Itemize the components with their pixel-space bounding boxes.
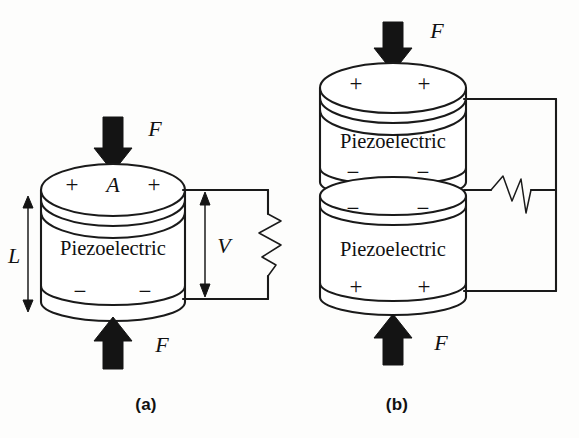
panel-caption-b: (b): [386, 395, 408, 414]
top-sign-left-b: +: [350, 71, 363, 96]
resistor-icon-b: [491, 176, 531, 213]
circuit-a: [183, 190, 281, 299]
voltage-dimension-a: [200, 192, 210, 297]
bottom-sign-left-a: −: [74, 279, 87, 304]
force-arrow-up-b: [374, 314, 412, 365]
top-sign-right-a: +: [148, 172, 161, 197]
force-arrow-up-a: [94, 317, 132, 369]
mid-upper-sign-left-b: −: [347, 160, 360, 185]
top-face-b: [320, 63, 466, 113]
length-dimension-a: [23, 196, 33, 312]
material-label-lower-b: Piezoelectric: [340, 238, 446, 260]
material-label-upper-b: Piezoelectric: [340, 130, 446, 152]
panel-a: F + A + Piezoelectric − −: [7, 116, 281, 414]
mid-upper-sign-right-b: −: [417, 160, 430, 185]
voltage-label-a: V: [217, 233, 233, 258]
figure-root: F + A + Piezoelectric − −: [0, 0, 579, 438]
bottom-sign-right-b: +: [418, 274, 431, 299]
resistor-icon-a: [259, 214, 281, 276]
force-label-bottom-a: F: [154, 332, 169, 357]
length-label-a: L: [7, 243, 20, 268]
top-sign-left-a: +: [66, 172, 79, 197]
bottom-sign-left-b: +: [350, 274, 363, 299]
panel-caption-a: (a): [135, 395, 156, 414]
panel-b: F + + Piezoelectric −: [320, 18, 556, 414]
area-label-a: A: [104, 172, 120, 197]
circuit-b: [464, 99, 556, 291]
force-label-bottom-b: F: [433, 330, 448, 355]
force-label-top-b: F: [429, 18, 444, 43]
top-sign-right-b: +: [418, 71, 431, 96]
bottom-sign-right-a: −: [139, 279, 152, 304]
material-label-a: Piezoelectric: [60, 237, 166, 259]
mid-lower-sign-left-b: −: [347, 196, 360, 221]
mid-face-b: [320, 177, 466, 215]
piezoelectric-diagram: F + A + Piezoelectric − −: [0, 0, 579, 438]
mid-lower-sign-right-b: −: [417, 196, 430, 221]
force-label-top-a: F: [147, 116, 162, 141]
